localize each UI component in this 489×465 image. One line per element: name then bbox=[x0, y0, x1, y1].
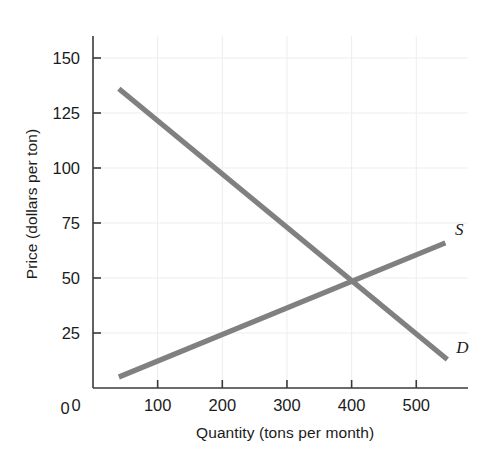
y-axis-tick-label: 150 bbox=[22, 49, 80, 68]
x-axis-tick-label: 300 bbox=[273, 396, 301, 415]
y-axis-tick-label: 25 bbox=[22, 324, 80, 343]
x-axis-tick-label: 100 bbox=[144, 396, 172, 415]
curve-label-S: S bbox=[455, 220, 464, 240]
supply-demand-chart: Price (dollars per ton) Quantity (tons p… bbox=[0, 0, 489, 465]
y-axis-tick-label: 0 bbox=[36, 399, 94, 418]
x-axis-ticks bbox=[158, 380, 417, 388]
x-axis-tick-label: 200 bbox=[209, 396, 237, 415]
y-axis-tick-label: 75 bbox=[22, 214, 80, 233]
x-axis-tick-label: 500 bbox=[403, 396, 431, 415]
axis-lines bbox=[93, 36, 468, 388]
x-axis-tick-label: 0 bbox=[71, 396, 80, 415]
curve-D bbox=[119, 89, 447, 360]
curve-label-D: D bbox=[456, 338, 468, 358]
y-axis-tick-label: 100 bbox=[22, 159, 80, 178]
curve-S bbox=[119, 243, 446, 377]
y-axis-ticks bbox=[93, 58, 101, 333]
curve-lines bbox=[119, 89, 447, 377]
x-axis-tick-label: 400 bbox=[338, 396, 366, 415]
y-axis-tick-label: 125 bbox=[22, 104, 80, 123]
y-axis-tick-label: 50 bbox=[22, 269, 80, 288]
vertical-gridlines bbox=[158, 36, 417, 388]
horizontal-gridlines bbox=[93, 58, 468, 333]
